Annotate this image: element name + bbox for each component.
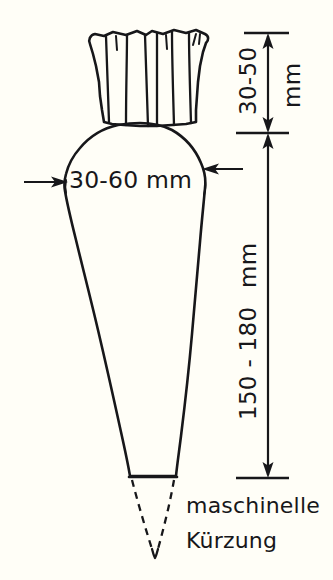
dimension-body-length: 150 - 180 mm [235,133,274,478]
petiole-divider-5 [172,32,174,125]
removed-tip-left-edge [132,480,152,549]
dimension-crown-height: 30-50 mm [235,33,305,133]
removed-tip-point [152,549,158,558]
crown-height-unit: mm [279,63,305,108]
crown-height-label: 30-50 [235,47,261,115]
vertical-dimensions-group: 30-50 mm 150 - 180 mm [235,33,305,478]
tip-note-line-1: maschinelle [186,493,320,518]
petiole-divider-2 [126,35,127,125]
petiole-divider-3 [145,35,148,126]
tip-note-group: maschinelle Kürzung [186,493,320,553]
body-length-unit: mm [235,243,261,288]
petiole-divider-6 [189,33,191,123]
petiole-cut-mark-1 [116,36,117,50]
petiole-cut-mark-4 [199,34,200,44]
petiole-cut-mark-2 [166,35,167,49]
width-dimension-group: 30-60 mm [24,164,243,195]
leaf-crown-group [89,30,208,126]
petiole-cut-mark-3 [193,34,196,45]
diagram-canvas: 30-50 mm 150 - 180 mm 30-60 mm maschinel… [0,0,333,580]
beet-dimension-figure: 30-50 mm 150 - 180 mm 30-60 mm maschinel… [0,0,333,580]
tip-note-line-2: Kürzung [186,528,277,553]
shoulder-width-label: 30-60 mm [69,166,192,194]
petiole-divider-1 [106,36,109,122]
body-length-label: 150 - 180 [235,307,261,420]
removed-tip-right-edge [158,480,174,549]
tip-cut-group [129,477,177,558]
